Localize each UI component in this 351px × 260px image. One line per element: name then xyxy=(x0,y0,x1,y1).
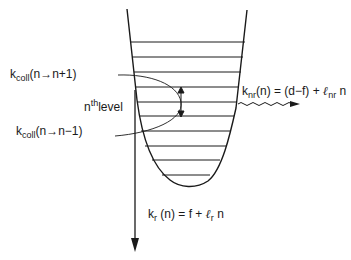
kcoll-up-label: kcoll(n→n+1) xyxy=(10,67,77,85)
collisional-arc xyxy=(115,75,181,136)
kcoll-down-arg: (n→n−1) xyxy=(36,124,83,138)
vibrational-levels xyxy=(131,42,245,175)
kr-tail: n xyxy=(214,207,224,221)
kcoll-up-sub: coll xyxy=(16,73,30,83)
nth-level-label: nthlevel xyxy=(84,96,123,114)
knr-rest: (n) = (d−f) + xyxy=(256,84,323,98)
kcoll-down-label: kcoll(n→n−1) xyxy=(16,124,83,142)
kcoll-down-sub: coll xyxy=(22,130,36,140)
nth-level-n: n xyxy=(84,100,91,114)
knr-sub: nr xyxy=(248,90,256,100)
radiative-decay-arrow xyxy=(131,90,139,252)
knr-ell-sub: nr xyxy=(328,90,336,100)
kcoll-up-arg: (n→n+1) xyxy=(30,67,77,81)
knr-tail: n xyxy=(336,84,346,98)
nth-level-rest: level xyxy=(98,100,123,114)
kr-equation-label: kr (n) = f + ℓr n xyxy=(148,207,224,225)
knr-equation-label: knr(n) = (d−f) + ℓnr n xyxy=(242,84,346,102)
kr-rest: (n) = f + xyxy=(157,207,206,221)
